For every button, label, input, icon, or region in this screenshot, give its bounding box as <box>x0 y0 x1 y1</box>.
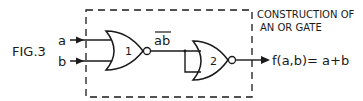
input-b-arrow-icon <box>76 58 84 65</box>
caption-line-1: CONSTRUCTION OF <box>257 9 354 20</box>
gate-1-label: 1 <box>125 45 132 58</box>
output-expression: f(a,b)= a+b <box>272 53 349 68</box>
figure-label: FIG.3 <box>12 44 46 59</box>
input-b-label: b <box>58 54 66 69</box>
gate-2-label: 2 <box>210 55 217 68</box>
caption-line-2: AN OR GATE <box>260 22 322 33</box>
gate-1-inversion-bubble <box>144 48 151 55</box>
output-arrow-icon <box>261 56 270 64</box>
tied-input-wire <box>185 51 201 72</box>
gate-2-inversion-bubble <box>229 57 236 64</box>
input-a-arrow-icon <box>76 37 84 44</box>
dashed-enclosure <box>86 10 252 97</box>
intermediate-label: ab <box>154 33 170 48</box>
input-a-label: a <box>58 33 66 48</box>
or-gate-construction-diagram: FIG.3 CONSTRUCTION OF AN OR GATE a b 1 a… <box>0 0 363 101</box>
